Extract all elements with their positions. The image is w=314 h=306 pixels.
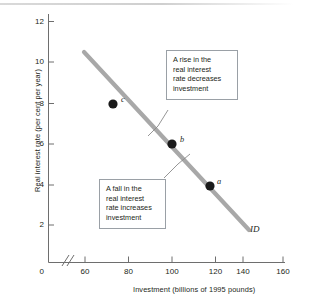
data-point-label-b: b	[180, 135, 184, 144]
curve-label-id: ID	[250, 224, 260, 234]
annotation-box-fall: A fall in the real interest rate increas…	[99, 179, 166, 229]
annotation-fall-line-3: rate increases	[106, 203, 160, 213]
y-tick-label-12: 12	[28, 17, 44, 26]
x-tick-label-140: 140	[231, 267, 255, 276]
origin-label: 0	[28, 267, 44, 276]
chart-plot-area	[0, 0, 314, 306]
data-point-b	[167, 139, 176, 148]
x-tick-label-100: 100	[160, 267, 184, 276]
leader-line-fall	[164, 154, 190, 178]
annotation-rise-line-4: investment	[173, 84, 232, 94]
data-point-c	[108, 99, 117, 108]
data-point-a	[205, 181, 214, 190]
annotation-rise-line-1: A rise in the	[173, 55, 232, 65]
y-tick-label-2: 2	[28, 220, 44, 229]
y-axis-title: Real interest rate (per cent per year)	[33, 46, 42, 216]
annotation-fall-line-4: investment	[106, 213, 160, 223]
x-tick-label-120: 120	[204, 267, 228, 276]
annotation-fall-line-1: A fall in the	[106, 184, 160, 194]
x-tick-label-160: 160	[271, 267, 295, 276]
x-tick-label-60: 60	[73, 267, 97, 276]
annotation-rise-line-3: rate decreases	[173, 74, 232, 84]
annotation-fall-line-2: real interest	[106, 194, 160, 204]
data-point-label-c: c	[121, 95, 125, 104]
investment-demand-chart: 12 10 8 6 4 2 0 60 80 100 120 140 160 Re…	[0, 0, 314, 306]
data-point-label-a: a	[217, 177, 221, 186]
x-axis-title: Investment (billions of 1995 pounds)	[133, 285, 255, 294]
annotation-box-rise: A rise in the real interest rate decreas…	[166, 50, 238, 100]
annotation-rise-line-2: real interest	[173, 65, 232, 75]
x-tick-label-80: 80	[117, 267, 141, 276]
